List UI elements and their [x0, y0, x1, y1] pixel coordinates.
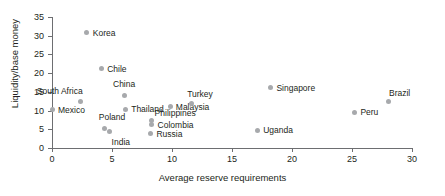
data-point-label: Poland	[99, 113, 125, 122]
y-tick-label: 25	[22, 49, 44, 59]
data-point	[149, 122, 154, 127]
x-tick-label: 0	[37, 154, 67, 164]
data-point	[255, 128, 260, 133]
data-point	[50, 107, 55, 112]
data-point-label: Turkey	[187, 90, 213, 99]
y-tick-label: 0	[22, 143, 44, 153]
y-tick-label: 20	[22, 68, 44, 78]
x-tick-label: 20	[277, 154, 307, 164]
data-point-label: Chile	[107, 65, 126, 74]
data-point-label: Singapore	[276, 84, 315, 93]
data-point-label: China	[113, 80, 135, 89]
x-tick	[112, 148, 113, 152]
y-tick-label: 10	[22, 106, 44, 116]
x-axis-title: Average reserve requirements	[0, 172, 445, 183]
data-point-label: Korea	[93, 29, 116, 38]
y-tick-label: 30	[22, 31, 44, 41]
scatter-chart: 05101520253035 051015202530 Liquidity/ba…	[0, 0, 445, 196]
x-tick	[232, 148, 233, 152]
data-point	[123, 107, 128, 112]
x-tick-label: 25	[337, 154, 367, 164]
x-tick	[412, 148, 413, 152]
data-point-label: India	[112, 138, 130, 147]
data-point	[352, 110, 357, 115]
x-tick-label: 10	[157, 154, 187, 164]
y-tick-label: 35	[22, 12, 44, 22]
data-point-label: Russia	[156, 130, 182, 139]
x-tick	[292, 148, 293, 152]
y-tick-label: 5	[22, 124, 44, 134]
x-tick-label: 15	[217, 154, 247, 164]
data-point	[189, 101, 194, 106]
y-axis-title: Liquidity/base money	[9, 0, 20, 134]
data-point	[99, 66, 104, 71]
x-tick-label: 5	[97, 154, 127, 164]
data-point-label: South Africa	[37, 87, 83, 96]
data-point-label: Peru	[360, 108, 378, 117]
data-point-label: Mexico	[58, 106, 85, 115]
x-tick	[52, 148, 53, 152]
x-tick-label: 30	[397, 154, 427, 164]
data-point-label: Uganda	[263, 126, 293, 135]
x-tick	[172, 148, 173, 152]
x-tick	[352, 148, 353, 152]
data-point-label: Brazil	[389, 89, 410, 98]
